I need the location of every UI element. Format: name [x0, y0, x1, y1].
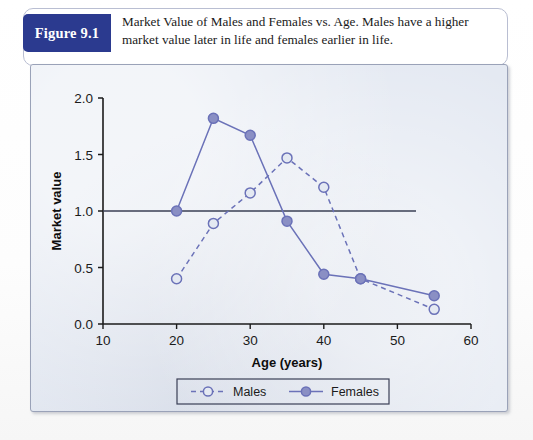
figure-number-badge: Figure 9.1	[23, 14, 111, 52]
x-axis-tick-label: 60	[463, 333, 478, 348]
y-axis-tick-label: 1.0	[74, 204, 93, 219]
y-axis-tick-label: 2.0	[74, 91, 93, 106]
data-point-males	[172, 274, 182, 284]
y-axis-title: Market value	[49, 172, 64, 251]
data-point-females	[172, 206, 182, 216]
x-axis-tick-label: 10	[95, 333, 110, 348]
y-axis-tick-label: 1.5	[74, 148, 93, 163]
x-axis-title: Age (years)	[252, 355, 323, 370]
y-axis-tick-label: 0.5	[74, 261, 93, 276]
data-point-females	[208, 113, 218, 123]
figure-caption-text: Market Value of Males and Females vs. Ag…	[122, 13, 492, 48]
series-line-females	[177, 118, 435, 295]
chart-panel: 0.00.51.01.52.0102030405060Age (years)Ma…	[30, 64, 508, 412]
data-point-males	[429, 304, 439, 314]
data-point-males	[282, 153, 292, 163]
x-axis-tick-label: 50	[390, 333, 405, 348]
data-point-females	[282, 216, 292, 226]
data-point-females	[429, 291, 439, 301]
data-point-males	[245, 188, 255, 198]
x-axis-tick-label: 20	[169, 333, 184, 348]
y-axis-tick-label: 0.0	[74, 317, 93, 332]
market-value-line-chart: 0.00.51.01.52.0102030405060Age (years)Ma…	[31, 65, 508, 412]
legend-swatch-males	[203, 387, 212, 396]
data-point-females	[319, 269, 329, 279]
data-point-females	[245, 130, 255, 140]
legend-label-males: Males	[233, 385, 266, 399]
x-axis-tick-label: 40	[316, 333, 331, 348]
legend-swatch-females	[301, 387, 310, 396]
legend-label-females: Females	[331, 385, 379, 399]
x-axis-tick-label: 30	[243, 333, 258, 348]
data-point-males	[319, 182, 329, 192]
data-point-males	[208, 218, 218, 228]
data-point-females	[356, 274, 366, 284]
